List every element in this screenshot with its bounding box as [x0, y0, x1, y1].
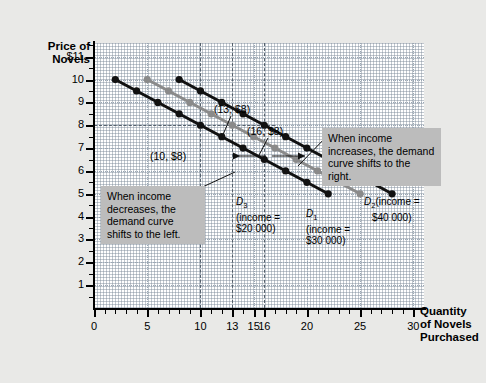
y-tick [86, 285, 94, 287]
y-tick-label: 2 [40, 255, 84, 267]
y-tick-label: 5 [40, 187, 84, 199]
x-tick-label: 20 [287, 320, 327, 332]
curve-label-d3-income2: $20 000) [236, 223, 280, 235]
y-tick-minor [89, 297, 94, 298]
x-tick-minor [381, 309, 382, 314]
y-tick-minor [89, 160, 94, 161]
y-tick-minor [89, 182, 94, 183]
curve-label-d1: D1 (income = $30 000) [306, 208, 350, 247]
curve-label-d1-sub: 1 [313, 213, 317, 222]
y-tick-minor [89, 137, 94, 138]
x-axis-title: Quantity of Novels Purchased [420, 305, 484, 344]
curve-label-d2: D2(income = $40 000) [364, 196, 420, 223]
x-tick [264, 309, 266, 317]
y-tick [86, 80, 94, 82]
figure-demand-curve-shift: 12345678910$110510131516202530 Price of … [0, 0, 486, 383]
x-tick-minor [243, 309, 244, 314]
x-tick-label: 16 [244, 320, 284, 332]
y-tick [86, 239, 94, 241]
y-tick-label: 4 [40, 210, 84, 222]
x-tick-minor [296, 309, 297, 314]
x-tick-label: 5 [127, 320, 167, 332]
y-tick [86, 194, 94, 196]
y-tick-minor [89, 251, 94, 252]
x-tick-label: 25 [340, 320, 380, 332]
curve-label-d3-income1: (income = [236, 212, 280, 224]
y-tick-label: 9 [40, 95, 84, 107]
x-tick [413, 309, 415, 317]
y-tick-minor [89, 91, 94, 92]
x-tick [307, 309, 309, 317]
y-tick [86, 148, 94, 150]
y-tick [86, 102, 94, 104]
x-tick [200, 309, 202, 317]
curve-label-d3-sub: 3 [243, 201, 247, 210]
y-tick [86, 262, 94, 264]
curve-label-d2-income1: (income = [375, 196, 419, 207]
x-tick-minor [222, 309, 223, 314]
y-tick-label: 1 [40, 278, 84, 290]
x-tick [254, 309, 256, 317]
y-axis-title-line1: Price of [24, 40, 90, 53]
x-axis [93, 308, 426, 310]
x-tick-minor [318, 309, 319, 314]
x-tick-minor [286, 309, 287, 314]
x-tick-minor [137, 309, 138, 314]
x-tick-minor [339, 309, 340, 314]
x-tick [360, 309, 362, 317]
x-tick-minor [392, 309, 393, 314]
x-tick-minor [211, 309, 212, 314]
x-tick [232, 309, 234, 317]
y-axis-title-line2: Novels [24, 53, 90, 66]
callout-income-increases: When income increases, the demand curve … [322, 128, 441, 186]
y-tick [86, 125, 94, 127]
curve-label-d1-income2: $30 000) [306, 235, 350, 247]
x-tick-minor [403, 309, 404, 314]
x-axis-title-line2: of Novels [420, 318, 484, 331]
y-tick-label: 8 [40, 118, 84, 130]
y-tick [86, 171, 94, 173]
point-label-16-8: (16, $8) [247, 125, 283, 137]
x-tick-minor [115, 309, 116, 314]
x-axis-title-line3: Purchased [420, 331, 484, 344]
x-tick [147, 309, 149, 317]
y-tick-label: 3 [40, 232, 84, 244]
curve-label-d2-income2: $40 000) [364, 212, 420, 224]
y-tick-minor [89, 68, 94, 69]
x-tick-minor [190, 309, 191, 314]
y-tick-minor [89, 114, 94, 115]
y-tick-minor [89, 205, 94, 206]
y-axis-title: Price of Novels [24, 40, 90, 66]
y-tick-label: 6 [40, 164, 84, 176]
y-tick-label: 10 [40, 73, 84, 85]
x-tick-minor [328, 309, 329, 314]
x-tick [94, 309, 96, 317]
x-tick-minor [349, 309, 350, 314]
point-label-10-8: (10, $8) [150, 150, 186, 162]
y-tick-minor [89, 228, 94, 229]
y-tick [86, 217, 94, 219]
callout-income-decreases: When income decreases, the demand curve … [101, 186, 205, 244]
y-tick-minor [89, 274, 94, 275]
x-axis-title-line1: Quantity [420, 305, 484, 318]
x-tick-minor [158, 309, 159, 314]
x-tick-minor [126, 309, 127, 314]
curve-label-d1-income1: (income = [306, 224, 350, 236]
x-tick-minor [275, 309, 276, 314]
point-label-13-8: (13, $8) [214, 103, 250, 115]
curve-label-d3: D3 (income = $20 000) [236, 196, 280, 235]
x-tick-minor [179, 309, 180, 314]
x-tick-minor [371, 309, 372, 314]
x-tick-minor [169, 309, 170, 314]
x-tick-label: 0 [74, 320, 114, 332]
x-tick-minor [105, 309, 106, 314]
y-tick-label: 7 [40, 141, 84, 153]
